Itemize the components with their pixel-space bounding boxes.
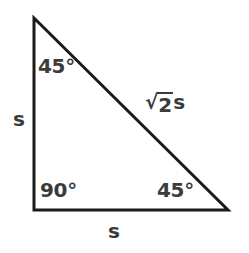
side-label-hypotenuse: √2 s — [145, 92, 185, 115]
side-label-leg-vertical: s — [13, 109, 25, 129]
radical-group: √2 — [145, 92, 173, 115]
angle-label-bottom-right: 45° — [157, 180, 194, 200]
side-label-leg-horizontal: s — [108, 221, 120, 241]
square-root-icon: √ — [145, 92, 158, 112]
angle-label-top: 45° — [38, 56, 75, 76]
triangle-diagram — [0, 0, 249, 253]
radicand-value: 2 — [157, 92, 173, 115]
hypotenuse-variable: s — [173, 92, 185, 112]
angle-label-right-angle: 90° — [40, 180, 77, 200]
